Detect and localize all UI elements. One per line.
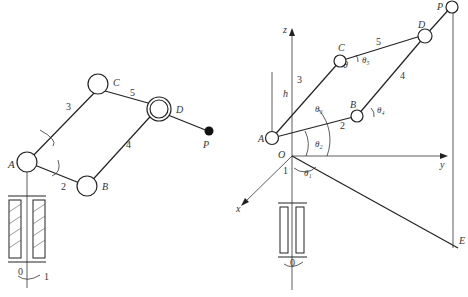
svg-text:C: C (113, 77, 120, 88)
joint-a (17, 152, 37, 172)
svg-text:D: D (175, 104, 184, 115)
mechanism-diagram: A B C D P 3 5 4 2 0 1 (0, 0, 468, 297)
svg-text:O: O (278, 149, 285, 160)
left-figure: A B C D P 3 5 4 2 0 1 (7, 74, 214, 288)
svg-text:1: 1 (44, 271, 49, 282)
svg-text:2: 2 (340, 120, 345, 131)
svg-text:0: 0 (290, 257, 295, 268)
joint-b (77, 176, 97, 196)
svg-text:P: P (436, 1, 443, 12)
svg-text:4: 4 (126, 139, 131, 150)
svg-text:θ₄: θ₄ (377, 105, 385, 115)
svg-text:4: 4 (400, 70, 405, 81)
joint-d (150, 100, 168, 118)
svg-text:θ₂: θ₂ (315, 139, 323, 149)
svg-text:B: B (102, 181, 108, 192)
svg-text:A: A (7, 158, 15, 170)
svg-text:θ₃: θ₃ (315, 104, 323, 114)
svg-text:x: x (235, 203, 241, 214)
svg-text:θ₅: θ₅ (362, 55, 370, 65)
svg-text:A: A (257, 133, 265, 144)
svg-text:y: y (439, 159, 445, 170)
svg-text:5: 5 (376, 36, 381, 47)
svg-text:P: P (202, 139, 209, 150)
joint-c (88, 74, 108, 94)
svg-text:E: E (458, 235, 465, 246)
svg-text:1: 1 (283, 165, 288, 176)
svg-text:C: C (338, 42, 345, 53)
svg-text:h: h (283, 88, 288, 99)
svg-text:2: 2 (61, 181, 66, 192)
svg-text:θ₁: θ₁ (304, 168, 312, 178)
svg-text:3: 3 (297, 74, 302, 85)
point-p (205, 127, 214, 136)
svg-text:B: B (350, 99, 356, 110)
svg-text:0: 0 (18, 266, 23, 277)
svg-text:5: 5 (130, 87, 135, 98)
svg-text:D: D (417, 19, 426, 30)
right-figure: θ A B C D P O E z y x h 3 5 4 2 1 0 θ₃ θ… (235, 1, 465, 290)
svg-text:3: 3 (66, 101, 71, 112)
svg-text:z: z (282, 24, 287, 35)
